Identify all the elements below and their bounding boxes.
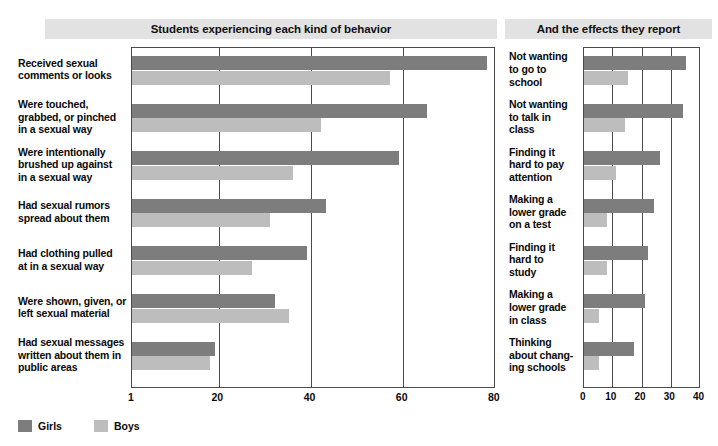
bar-boys xyxy=(132,213,270,227)
category-label-line: hard to pay xyxy=(509,158,579,171)
category-label-line: in class xyxy=(509,314,579,327)
category-label-line: spread about them xyxy=(18,212,130,225)
right-panel-title: And the effects they report xyxy=(537,23,681,35)
category-label-line: in a sexual way xyxy=(18,123,130,136)
legend: Girls Boys xyxy=(18,420,140,432)
gridline xyxy=(642,48,643,387)
bar-girls xyxy=(584,246,648,260)
bar-boys xyxy=(584,261,607,275)
bar-girls xyxy=(584,56,686,70)
category-label-line: Not wanting xyxy=(509,50,579,63)
category-label-line: at in a sexual way xyxy=(18,260,130,273)
category-label: Finding ithard tostudy xyxy=(509,241,579,279)
bar-boys xyxy=(132,261,252,275)
legend-label-boys: Boys xyxy=(114,420,140,432)
right-chart-plot-area xyxy=(583,47,700,388)
category-label: Had sexual rumorsspread about them xyxy=(18,199,130,224)
gridline xyxy=(612,48,613,387)
category-label-line: left sexual material xyxy=(18,307,130,320)
x-axis-tick-label: 20 xyxy=(212,391,224,403)
category-label: Were shown, given, orleft sexual materia… xyxy=(18,295,130,320)
x-axis-tick-label: 40 xyxy=(304,391,316,403)
category-label-line: about chang- xyxy=(509,349,579,362)
category-label-line: written about them in xyxy=(18,349,130,362)
category-label-line: Were shown, given, or xyxy=(18,295,130,308)
category-label: Not wantingto talk inclass xyxy=(509,98,579,136)
bar-girls xyxy=(132,246,307,260)
category-label-line: Finding it xyxy=(509,146,579,159)
category-label-line: to go to xyxy=(509,63,579,76)
x-axis-tick-label: 1 xyxy=(128,391,134,403)
x-axis-tick-label: 10 xyxy=(605,391,616,402)
category-label-line: lower grade xyxy=(509,206,579,219)
category-label-line: brushed up against xyxy=(18,158,130,171)
bar-girls xyxy=(584,199,654,213)
category-label-line: lower grade xyxy=(509,301,579,314)
category-label-line: to talk in xyxy=(509,111,579,124)
legend-label-girls: Girls xyxy=(38,420,62,432)
bar-girls xyxy=(132,342,215,356)
left-panel-header: Students experiencing each kind of behav… xyxy=(45,19,497,39)
category-label-line: Were intentionally xyxy=(18,146,130,159)
category-label: Not wantingto go toschool xyxy=(509,50,579,88)
category-label: Received sexualcomments or looks xyxy=(18,57,130,82)
category-label-line: public areas xyxy=(18,361,130,374)
bar-boys xyxy=(584,166,616,180)
legend-item-boys: Boys xyxy=(94,420,140,432)
left-panel-title: Students experiencing each kind of behav… xyxy=(151,23,391,35)
gridline xyxy=(403,48,404,387)
category-label-line: school xyxy=(509,76,579,89)
right-panel-header: And the effects they report xyxy=(505,19,712,39)
left-chart-plot-area xyxy=(131,47,495,388)
category-label-line: Had sexual messages xyxy=(18,336,130,349)
category-label-line: attention xyxy=(509,171,579,184)
legend-swatch-girls xyxy=(18,420,32,432)
category-label-line: Had clothing pulled xyxy=(18,247,130,260)
bar-boys xyxy=(584,118,625,132)
bar-boys xyxy=(132,309,289,323)
category-label-line: ing schools xyxy=(509,361,579,374)
category-label-line: Were touched, xyxy=(18,98,130,111)
bar-girls xyxy=(132,104,427,118)
bar-boys xyxy=(132,71,390,85)
category-label-line: Received sexual xyxy=(18,57,130,70)
category-label: Had sexual messageswritten about them in… xyxy=(18,336,130,374)
bar-girls xyxy=(584,294,645,308)
bar-girls xyxy=(584,342,634,356)
category-label-line: hard to xyxy=(509,253,579,266)
category-label: Making alower gradein class xyxy=(509,288,579,326)
x-axis-tick-label: 20 xyxy=(635,391,646,402)
legend-item-girls: Girls xyxy=(18,420,62,432)
category-label: Thinkingabout chang-ing schools xyxy=(509,336,579,374)
bar-girls xyxy=(132,151,399,165)
bar-boys xyxy=(584,71,628,85)
x-axis-tick-label: 60 xyxy=(396,391,408,403)
category-label-line: Making a xyxy=(509,288,579,301)
bar-girls xyxy=(584,151,660,165)
category-label-line: Not wanting xyxy=(509,98,579,111)
bar-girls xyxy=(584,104,683,118)
x-axis-tick-label: 80 xyxy=(488,391,500,403)
category-label-line: Making a xyxy=(509,193,579,206)
gridline xyxy=(671,48,672,387)
x-axis-tick-label: 0 xyxy=(580,391,586,402)
category-label-line: comments or looks xyxy=(18,69,130,82)
bar-boys xyxy=(584,356,599,370)
x-axis-tick-label: 40 xyxy=(693,391,704,402)
category-label-line: in a sexual way xyxy=(18,171,130,184)
bar-boys xyxy=(584,309,599,323)
x-axis-tick-label: 30 xyxy=(664,391,675,402)
bar-boys xyxy=(132,356,210,370)
category-label-line: on a test xyxy=(509,218,579,231)
bar-girls xyxy=(132,56,487,70)
gridline xyxy=(311,48,312,387)
bar-boys xyxy=(132,118,321,132)
bar-girls xyxy=(132,294,275,308)
category-label-line: Had sexual rumors xyxy=(18,199,130,212)
bar-girls xyxy=(132,199,326,213)
category-label: Were touched,grabbed, or pinchedin a sex… xyxy=(18,98,130,136)
category-label: Had clothing pulledat in a sexual way xyxy=(18,247,130,272)
category-label-line: Finding it xyxy=(509,241,579,254)
category-label-line: study xyxy=(509,266,579,279)
category-label: Were intentionallybrushed up againstin a… xyxy=(18,146,130,184)
